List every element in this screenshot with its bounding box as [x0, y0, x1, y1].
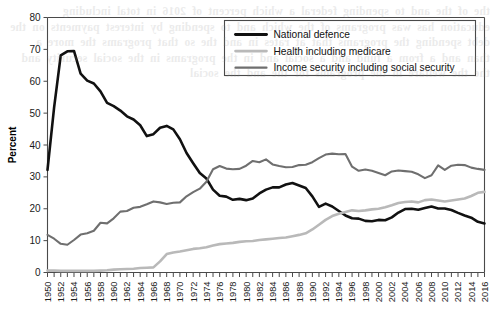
x-tick-label: 1984: [268, 282, 278, 303]
x-tick-label: 1952: [56, 282, 66, 303]
x-tick-label: 1972: [189, 282, 199, 303]
x-tick-label: 1958: [96, 282, 106, 303]
x-tick-label: 1962: [122, 282, 132, 303]
y-tick-label: 10: [29, 235, 41, 246]
x-tick-label: 1976: [215, 282, 225, 303]
y-tick-label: 50: [29, 108, 41, 119]
x-tick-label: 1968: [162, 282, 172, 303]
x-tick-label: 1954: [69, 282, 79, 303]
x-tick-label: 2012: [453, 282, 463, 303]
series-line-income-security-including-social-security: [48, 154, 485, 245]
line-chart: 01020304050607080Percent1950195219541956…: [0, 0, 498, 321]
x-tick-label: 2016: [480, 282, 490, 303]
x-tick-label: 2002: [387, 282, 397, 303]
legend-label-2: Health including medicare: [274, 46, 392, 57]
x-tick-label: 1978: [228, 282, 238, 303]
x-tick-label: 1994: [334, 282, 344, 303]
x-tick-label: 1980: [242, 282, 252, 303]
x-tick-label: 2010: [440, 282, 450, 303]
y-tick-label: 60: [29, 76, 41, 87]
x-tick-label: 1992: [321, 282, 331, 303]
y-tick-label: 40: [29, 140, 41, 151]
legend-label-1: National defence: [274, 29, 351, 40]
x-tick-label: 1986: [281, 282, 291, 303]
x-tick-label: 1950: [43, 282, 53, 303]
series-line-national-defence: [48, 51, 485, 223]
series-line-health-including-medicare: [48, 192, 485, 271]
x-tick-label: 1988: [295, 282, 305, 303]
x-tick-label: 1998: [361, 282, 371, 303]
y-tick-label: 20: [29, 203, 41, 214]
x-tick-label: 2006: [414, 282, 424, 303]
x-tick-label: 1970: [175, 282, 185, 303]
x-tick-label: 2008: [427, 282, 437, 303]
x-tick-label: 1996: [347, 282, 357, 303]
x-tick-label: 1964: [136, 282, 146, 303]
legend-label-3: Income security including social securit…: [274, 62, 456, 73]
x-tick-label: 1960: [109, 282, 119, 303]
x-tick-label: 1982: [255, 282, 265, 303]
x-tick-label: 1956: [83, 282, 93, 303]
y-tick-label: 0: [35, 267, 41, 278]
x-tick-label: 1966: [149, 282, 159, 303]
x-tick-label: 2004: [400, 282, 410, 303]
y-tick-label: 70: [29, 44, 41, 55]
chart-container: the of the and to spending federal a whi…: [0, 0, 498, 321]
x-tick-label: 1974: [202, 282, 212, 303]
x-tick-label: 1990: [308, 282, 318, 303]
x-tick-label: 2000: [374, 282, 384, 303]
y-tick-label: 80: [29, 12, 41, 23]
y-axis-title: Percent: [7, 126, 18, 163]
x-tick-label: 2014: [467, 282, 477, 303]
y-tick-label: 30: [29, 171, 41, 182]
